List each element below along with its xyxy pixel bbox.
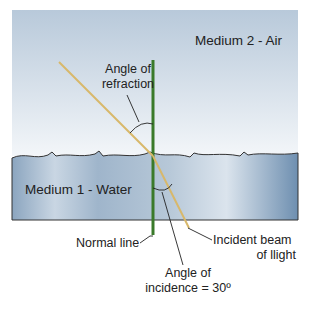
label-angle-of-refraction-line1: Angle of (94, 62, 162, 77)
normal-line-pointer (140, 236, 153, 243)
incident-beam-pointer (188, 228, 212, 240)
label-normal-line: Normal line (76, 236, 139, 251)
label-incident-beam-line1: Incident beam (213, 233, 296, 248)
label-angle-of-incidence-line2: incidence = 30º (140, 281, 236, 296)
label-angle-of-refraction-line2: refraction (94, 77, 162, 92)
label-angle-of-incidence: Angle of incidence = 30º (140, 266, 236, 296)
label-incident-beam-line2: of llight (213, 248, 296, 263)
label-incident-beam: Incident beam of llight (213, 233, 296, 263)
label-medium-water: Medium 1 - Water (25, 182, 132, 197)
label-angle-of-incidence-line1: Angle of (140, 266, 236, 281)
label-angle-of-refraction: Angle of refraction (94, 62, 162, 92)
label-medium-air: Medium 2 - Air (195, 33, 282, 48)
